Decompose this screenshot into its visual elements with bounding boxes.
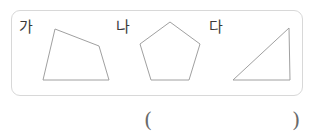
- shape-label-na: 나: [116, 20, 130, 35]
- answer-blank-field[interactable]: [158, 107, 288, 133]
- answer-open-paren: (: [144, 107, 152, 133]
- shape-label-ga: 가: [19, 20, 33, 35]
- answer-close-paren: ): [292, 107, 300, 133]
- worksheet-canvas: 가 나 다 ( ): [0, 0, 315, 139]
- shape-label-da: 다: [209, 20, 223, 35]
- answer-row: ( ): [140, 107, 305, 133]
- figure-container-box: [11, 10, 303, 96]
